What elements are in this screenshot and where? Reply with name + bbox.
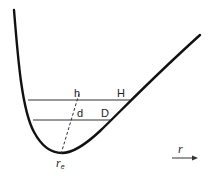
label-r-axis: r (178, 142, 183, 156)
label-h: h (74, 87, 80, 99)
label-d: d (77, 107, 83, 119)
potential-curve-diagram: h H d D re r (0, 0, 211, 176)
label-re-sub: e (61, 163, 65, 170)
label-re: re (56, 156, 65, 170)
label-H: H (117, 87, 125, 99)
arrow-right-icon (192, 156, 198, 161)
potential-curve (14, 10, 200, 153)
dashed-midpoint-line (61, 94, 79, 154)
label-D: D (101, 107, 109, 119)
